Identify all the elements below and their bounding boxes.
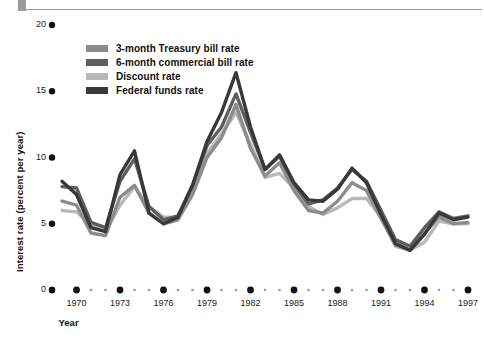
y-axis-tick-label: 10 [24,152,46,162]
x-axis-tick-label: 1991 [361,298,401,308]
x-axis-major-dot [465,287,472,294]
x-axis-title: Year [59,317,79,328]
x-axis-minor-dot [191,289,194,292]
x-axis-major-dot [334,287,341,294]
x-axis-minor-dot [177,289,180,292]
legend-swatch [86,45,108,52]
x-axis-tick-label: 1997 [448,298,484,308]
legend-swatch [86,59,108,66]
x-axis-major-dot [73,287,80,294]
x-axis-major-dot [247,287,254,294]
x-axis-major-dot [378,287,385,294]
legend-item: 3-month Treasury bill rate [86,42,254,55]
x-axis-tick-label: 1994 [405,298,445,308]
chart-figure: Interest rate (percent per year) 0510152… [0,14,484,340]
legend-label: 3-month Treasury bill rate [116,43,240,54]
x-axis-major-dot [204,287,211,294]
header-divider [22,9,482,10]
x-axis-tick-label: 1976 [144,298,184,308]
legend-label: Discount rate [116,71,181,82]
x-axis-major-dot [421,287,428,294]
series-line [62,73,468,251]
y-axis-tick-dot [49,22,55,28]
x-axis-minor-dot [148,289,151,292]
y-axis-tick-dot [49,154,55,160]
x-axis-tick-label: 1988 [318,298,358,308]
legend-swatch [86,73,108,80]
x-axis-tick-label: 1985 [274,298,314,308]
x-axis-minor-dot [307,289,310,292]
x-axis-tick-label: 1970 [57,298,97,308]
x-axis-minor-dot [235,289,238,292]
x-axis-tick-label: 1982 [231,298,271,308]
x-axis-minor-dot [133,289,136,292]
x-axis-minor-dot [438,289,441,292]
legend-label: Federal funds rate [116,85,204,96]
y-axis-tick-label: 0 [24,284,46,294]
x-axis-minor-dot [365,289,368,292]
x-axis-minor-dot [322,289,325,292]
x-axis-minor-dot [264,289,267,292]
origin-dot [49,287,55,293]
y-axis-tick-label: 15 [24,85,46,95]
series-line [62,112,468,250]
x-axis-major-dot [117,287,124,294]
x-axis-minor-dot [409,289,412,292]
y-axis-tick-label: 5 [24,218,46,228]
x-axis-minor-dot [104,289,107,292]
legend-item: Federal funds rate [86,84,254,97]
legend-label: 6-month commercial bill rate [116,57,254,68]
x-axis-tick-label: 1979 [187,298,227,308]
y-axis-tick-dot [49,221,55,227]
x-axis-minor-dot [90,289,93,292]
header-rule [0,0,484,14]
x-axis-tick-label: 1973 [100,298,140,308]
legend-swatch [86,87,108,94]
x-axis-minor-dot [220,289,223,292]
x-axis-minor-dot [351,289,354,292]
legend-item: 6-month commercial bill rate [86,56,254,69]
x-axis-major-dot [291,287,298,294]
x-axis-minor-dot [452,289,455,292]
legend-item: Discount rate [86,70,254,83]
x-axis-major-dot [160,287,167,294]
y-axis-tick-dot [49,88,55,94]
chart-legend: 3-month Treasury bill rate6-month commer… [86,42,254,98]
x-axis-minor-dot [394,289,397,292]
x-axis-minor-dot [278,289,281,292]
y-axis-tick-label: 20 [24,19,46,29]
